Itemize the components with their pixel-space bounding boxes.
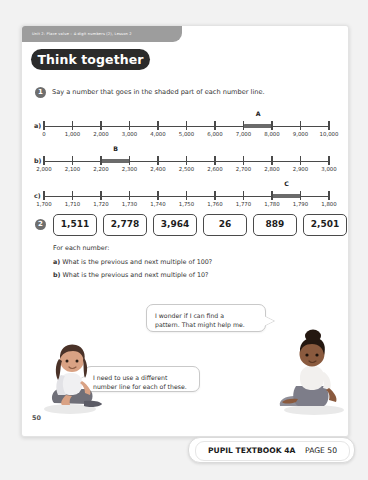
page-number: 50 bbox=[32, 414, 41, 422]
number-line-tick bbox=[157, 156, 158, 165]
number-line-tick-label: 2,300 bbox=[122, 166, 137, 172]
number-line-tick-label: 2,600 bbox=[207, 166, 222, 172]
number-line-tick bbox=[186, 121, 187, 130]
number-line-tick bbox=[129, 121, 130, 130]
number-line-tick bbox=[271, 191, 272, 200]
number-line-tick-label: 8,000 bbox=[264, 131, 279, 137]
number-line-c-marker: C bbox=[284, 180, 289, 187]
question-2-part-b-label: b) bbox=[53, 271, 61, 279]
question-2-part-b: b) What is the previous and next multipl… bbox=[53, 271, 208, 279]
number-line-tick-label: 3,000 bbox=[122, 131, 137, 137]
speech-bubble-pattern-line2: pattern. That might help me. bbox=[155, 320, 257, 329]
number-line-tick-label: 1,800 bbox=[321, 201, 336, 207]
number-card[interactable]: 2,778 bbox=[103, 214, 147, 236]
question-2-intro: For each number: bbox=[53, 244, 109, 252]
number-line-tick bbox=[186, 156, 187, 165]
number-line-tick bbox=[72, 156, 73, 165]
number-line-tick bbox=[328, 156, 329, 165]
character-girl-right bbox=[274, 326, 346, 418]
think-together-banner: Think together bbox=[31, 49, 150, 70]
number-line-tick-label: 2,800 bbox=[264, 166, 279, 172]
number-line-tick-label: 1,720 bbox=[93, 201, 108, 207]
number-line-tick bbox=[214, 191, 215, 200]
number-line-tick-label: 10,000 bbox=[320, 131, 339, 137]
unit-strip-label: Unit 2: Place value – 4-digit numbers (2… bbox=[22, 26, 182, 42]
number-line-tick-label: 2,100 bbox=[65, 166, 80, 172]
number-line-c-label: c) bbox=[34, 192, 41, 200]
number-line-a-label: a) bbox=[34, 122, 41, 130]
textbook-page: Unit 2: Place value – 4-digit numbers (2… bbox=[21, 25, 349, 437]
number-line-tick-label: 2,000 bbox=[93, 131, 108, 137]
number-line-tick-label: 5,000 bbox=[179, 131, 194, 137]
number-line-tick-label: 1,700 bbox=[36, 201, 51, 207]
number-line-tick-label: 0 bbox=[42, 131, 45, 137]
number-line-tick-label: 2,900 bbox=[293, 166, 308, 172]
number-line-tick bbox=[129, 191, 130, 200]
number-line-tick bbox=[214, 121, 215, 130]
number-line-tick-label: 6,000 bbox=[207, 131, 222, 137]
number-line-tick bbox=[100, 156, 101, 165]
footer-label: PUPIL TEXTBOOK 4A PAGE 50 bbox=[195, 441, 350, 461]
character-girl-left bbox=[40, 331, 108, 416]
number-line-tick bbox=[243, 121, 244, 130]
number-line-tick-label: 1,000 bbox=[65, 131, 80, 137]
number-line-tick bbox=[271, 121, 272, 130]
number-line-tick-label: 2,200 bbox=[93, 166, 108, 172]
number-line-tick-label: 1,770 bbox=[236, 201, 251, 207]
number-line-tick-label: 9,000 bbox=[293, 131, 308, 137]
number-line-tick bbox=[72, 121, 73, 130]
number-line-tick-label: 2,000 bbox=[36, 166, 51, 172]
number-line-tick-label: 7,000 bbox=[236, 131, 251, 137]
speech-bubble-tail-icon bbox=[264, 316, 274, 326]
number-line-tick bbox=[157, 121, 158, 130]
number-line-tick bbox=[243, 156, 244, 165]
question-2-part-b-text: What is the previous and next multiple o… bbox=[61, 271, 209, 279]
number-line-tick-label: 2,700 bbox=[236, 166, 251, 172]
number-line-tick bbox=[300, 156, 301, 165]
number-line-tick-label: 1,750 bbox=[179, 201, 194, 207]
number-line-tick bbox=[43, 156, 44, 165]
number-line-tick-label: 1,740 bbox=[150, 201, 165, 207]
number-line-b-shaded-region bbox=[101, 159, 130, 163]
number-line-tick-label: 1,790 bbox=[293, 201, 308, 207]
number-card[interactable]: 2,501 bbox=[303, 214, 347, 236]
number-card[interactable]: 3,964 bbox=[153, 214, 197, 236]
question-1-prompt: Say a number that goes in the shaded par… bbox=[52, 87, 265, 98]
number-card[interactable]: 889 bbox=[253, 214, 297, 236]
number-line-tick-label: 3,000 bbox=[321, 166, 336, 172]
number-line-a-marker: A bbox=[256, 110, 261, 117]
number-line-tick bbox=[186, 191, 187, 200]
number-line-tick bbox=[72, 191, 73, 200]
number-line-tick-label: 1,780 bbox=[264, 201, 279, 207]
footer-book-title: PUPIL TEXTBOOK 4A bbox=[208, 446, 295, 455]
question-2-part-a-text: What is the previous and next multiple o… bbox=[60, 258, 212, 266]
number-line-tick-label: 1,760 bbox=[207, 201, 222, 207]
number-line-tick bbox=[129, 156, 130, 165]
footer-page-label: PAGE 50 bbox=[305, 446, 337, 455]
number-line-tick bbox=[328, 121, 329, 130]
question-1-number: 1 bbox=[35, 87, 46, 98]
number-line-tick bbox=[43, 121, 44, 130]
number-line-tick bbox=[157, 191, 158, 200]
number-line-tick bbox=[43, 191, 44, 200]
number-line-tick-label: 1,710 bbox=[65, 201, 80, 207]
number-line-a-shaded-region bbox=[244, 124, 273, 128]
number-line-tick bbox=[271, 156, 272, 165]
question-2-number: 2 bbox=[35, 219, 46, 230]
number-card[interactable]: 26 bbox=[203, 214, 247, 236]
number-line-b-marker: B bbox=[113, 145, 118, 152]
footer-tab: PUPIL TEXTBOOK 4A PAGE 50 bbox=[188, 437, 355, 463]
number-line-tick-label: 1,730 bbox=[122, 201, 137, 207]
number-line-tick bbox=[100, 121, 101, 130]
number-line-tick bbox=[300, 121, 301, 130]
number-line-tick-label: 4,000 bbox=[150, 131, 165, 137]
number-line-tick bbox=[100, 191, 101, 200]
number-line-tick-label: 2,500 bbox=[179, 166, 194, 172]
speech-bubble-pattern: I wonder if I can find a pattern. That m… bbox=[146, 304, 266, 332]
question-2-part-a: a) What is the previous and next multipl… bbox=[53, 258, 212, 266]
number-line-tick-label: 2,400 bbox=[150, 166, 165, 172]
number-line-tick bbox=[300, 191, 301, 200]
number-line-tick bbox=[214, 156, 215, 165]
number-card[interactable]: 1,511 bbox=[53, 214, 97, 236]
number-line-c-shaded-region bbox=[272, 194, 301, 198]
